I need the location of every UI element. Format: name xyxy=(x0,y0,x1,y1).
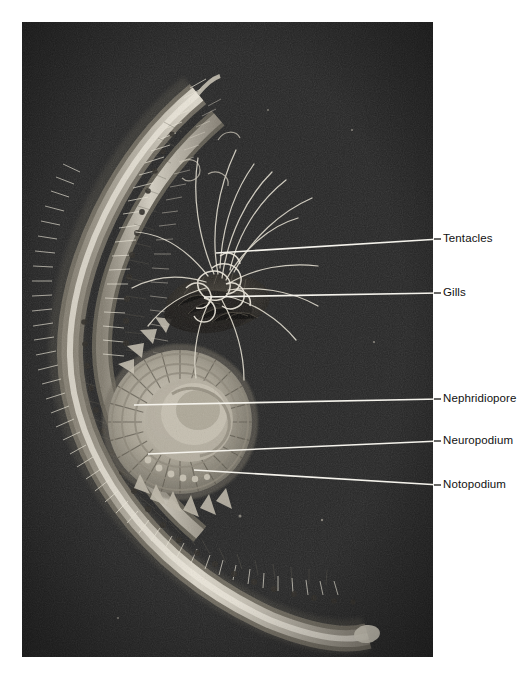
figure-plate: Tentacles Gills Nephridiopore Neuropodiu… xyxy=(0,0,528,677)
specimen-photo-canvas xyxy=(22,22,433,657)
label-gills: Gills xyxy=(443,286,466,298)
label-neuropodium: Neuropodium xyxy=(443,434,513,446)
label-nephridiopore: Nephridiopore xyxy=(443,392,517,404)
vignette xyxy=(22,22,433,657)
label-tentacles: Tentacles xyxy=(443,232,492,244)
specimen-photograph xyxy=(22,22,433,657)
label-notopodium: Notopodium xyxy=(443,478,506,490)
